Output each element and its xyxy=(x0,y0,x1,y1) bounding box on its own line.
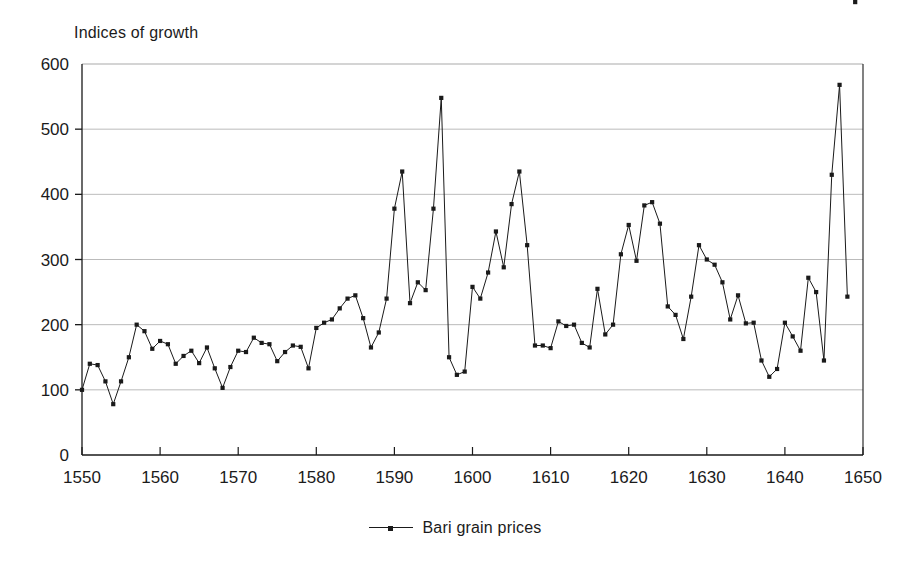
chart-axis-title: Indices of growth xyxy=(74,24,198,42)
data-point-marker xyxy=(431,207,435,211)
data-point-marker xyxy=(314,326,318,330)
data-point-marker xyxy=(502,265,506,269)
data-point-marker xyxy=(759,358,763,362)
data-point-marker xyxy=(205,345,209,349)
data-point-marker xyxy=(197,361,201,365)
data-point-marker xyxy=(814,290,818,294)
data-point-marker xyxy=(517,169,521,173)
data-point-marker xyxy=(736,293,740,297)
data-point-marker xyxy=(494,229,498,233)
x-tick-label-1590: 1590 xyxy=(375,468,413,487)
data-point-marker xyxy=(619,252,623,256)
data-point-marker xyxy=(689,295,693,299)
y-tick-label-100: 100 xyxy=(41,381,69,400)
data-point-marker xyxy=(791,334,795,338)
data-point-marker xyxy=(244,350,248,354)
chart-container: Indices of growth 0100200300400500600 15… xyxy=(0,0,911,579)
data-point-marker xyxy=(681,337,685,341)
data-point-marker xyxy=(330,317,334,321)
data-point-marker xyxy=(845,295,849,299)
series-bari-grain-prices xyxy=(80,0,857,406)
data-point-marker xyxy=(361,316,365,320)
data-point-marker xyxy=(283,350,287,354)
x-tick-label-1640: 1640 xyxy=(766,468,804,487)
data-point-marker xyxy=(275,359,279,363)
x-tick-label-1570: 1570 xyxy=(219,468,257,487)
data-point-marker xyxy=(142,329,146,333)
data-point-marker xyxy=(525,243,529,247)
y-axis-tick-labels: 0100200300400500600 xyxy=(41,55,69,465)
data-point-marker xyxy=(322,321,326,325)
data-point-marker xyxy=(377,330,381,334)
data-point-marker xyxy=(166,342,170,346)
data-point-marker xyxy=(783,321,787,325)
data-point-marker xyxy=(80,388,84,392)
y-tick-label-600: 600 xyxy=(41,55,69,74)
data-point-marker xyxy=(822,358,826,362)
data-point-marker xyxy=(181,354,185,358)
x-tick-label-1600: 1600 xyxy=(454,468,492,487)
data-point-marker xyxy=(353,293,357,297)
data-point-marker xyxy=(650,200,654,204)
x-tick-label-1630: 1630 xyxy=(688,468,726,487)
data-point-marker xyxy=(666,304,670,308)
data-point-marker xyxy=(658,222,662,226)
data-point-marker xyxy=(111,402,115,406)
data-point-marker xyxy=(291,343,295,347)
data-point-marker xyxy=(189,349,193,353)
x-tick-label-1650: 1650 xyxy=(844,468,882,487)
data-point-marker xyxy=(580,341,584,345)
data-point-marker xyxy=(705,257,709,261)
data-point-marker xyxy=(713,263,717,267)
legend-label-bari-grain-prices: Bari grain prices xyxy=(422,519,541,537)
data-point-marker xyxy=(463,369,467,373)
y-tick-label-200: 200 xyxy=(41,316,69,335)
data-point-marker xyxy=(119,379,123,383)
data-point-marker xyxy=(150,347,154,351)
data-point-marker xyxy=(306,366,310,370)
data-point-marker xyxy=(533,343,537,347)
data-point-marker xyxy=(509,202,513,206)
x-tick-label-1610: 1610 xyxy=(532,468,570,487)
data-point-marker xyxy=(260,341,264,345)
data-point-marker xyxy=(103,379,107,383)
data-point-marker xyxy=(830,173,834,177)
data-point-marker xyxy=(455,373,459,377)
data-point-marker xyxy=(236,349,240,353)
data-point-marker xyxy=(549,346,553,350)
data-point-marker xyxy=(588,345,592,349)
data-point-marker xyxy=(478,297,482,301)
data-point-marker xyxy=(447,355,451,359)
data-point-marker xyxy=(564,324,568,328)
x-tick-label-1560: 1560 xyxy=(141,468,179,487)
data-point-marker xyxy=(752,321,756,325)
data-point-marker xyxy=(486,270,490,274)
data-point-marker xyxy=(697,243,701,247)
data-point-marker xyxy=(595,287,599,291)
data-point-marker xyxy=(400,169,404,173)
data-point-marker xyxy=(627,223,631,227)
data-point-marker xyxy=(424,288,428,292)
data-point-marker xyxy=(228,365,232,369)
data-point-marker xyxy=(267,342,271,346)
data-point-marker xyxy=(642,203,646,207)
data-point-marker xyxy=(345,297,349,301)
data-point-marker xyxy=(338,306,342,310)
y-tick-label-300: 300 xyxy=(41,251,69,270)
data-point-marker xyxy=(127,355,131,359)
data-point-marker xyxy=(728,317,732,321)
data-point-marker xyxy=(470,285,474,289)
gridlines-group xyxy=(82,64,863,390)
data-point-marker xyxy=(767,375,771,379)
data-point-marker xyxy=(369,345,373,349)
data-point-marker xyxy=(572,323,576,327)
data-point-marker xyxy=(88,362,92,366)
data-point-marker xyxy=(220,386,224,390)
data-point-marker xyxy=(384,297,388,301)
data-point-marker xyxy=(392,207,396,211)
data-point-marker xyxy=(603,332,607,336)
data-point-marker xyxy=(556,319,560,323)
x-axis-tick-labels: 1550156015701580159016001610162016301640… xyxy=(63,468,882,487)
y-tick-label-400: 400 xyxy=(41,185,69,204)
data-point-marker xyxy=(853,0,857,4)
